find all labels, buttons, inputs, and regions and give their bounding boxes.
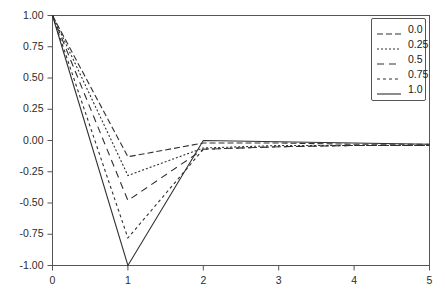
legend-label: 0.0 — [408, 22, 423, 37]
y-tick-label: 0.75 — [23, 40, 43, 52]
legend-item-0.0: 0.0 — [376, 22, 420, 37]
chart-legend: 0.00.250.50.751.0 — [371, 18, 426, 101]
legend-line-swatch — [376, 25, 402, 35]
legend-label: 1.0 — [408, 82, 423, 97]
y-tick-label: 1.00 — [23, 9, 43, 21]
legend-line-swatch — [376, 55, 402, 65]
legend-line-swatch — [376, 70, 402, 80]
legend-label: 0.75 — [408, 67, 428, 82]
y-axis-ticks — [48, 16, 53, 266]
y-tick-label: -0.50 — [20, 196, 44, 208]
y-tick-label: 0.25 — [23, 102, 43, 114]
y-tick-label: 0.50 — [23, 71, 43, 83]
x-tick-label: 5 — [410, 274, 445, 286]
legend-line-swatch — [376, 40, 402, 50]
x-tick-label: 1 — [108, 274, 148, 286]
x-tick-label: 2 — [183, 274, 223, 286]
legend-item-0.25: 0.25 — [376, 37, 420, 52]
legend-label: 0.25 — [408, 37, 428, 52]
x-axis-ticks — [53, 266, 430, 271]
legend-item-0.75: 0.75 — [376, 67, 420, 82]
chart-figure: 1.000.750.500.250.00-0.25-0.50-0.75-1.00… — [0, 0, 445, 302]
legend-item-1.0: 1.0 — [376, 82, 420, 97]
legend-item-0.5: 0.5 — [376, 52, 420, 67]
y-tick-label: 0.00 — [23, 134, 43, 146]
y-tick-label: -0.75 — [20, 227, 44, 239]
legend-line-swatch — [376, 85, 402, 95]
x-tick-label: 3 — [259, 274, 299, 286]
legend-label: 0.5 — [408, 52, 423, 67]
y-tick-label: -1.00 — [20, 259, 44, 271]
x-tick-label: 0 — [33, 274, 73, 286]
x-tick-label: 4 — [334, 274, 374, 286]
y-tick-label: -0.25 — [20, 165, 44, 177]
